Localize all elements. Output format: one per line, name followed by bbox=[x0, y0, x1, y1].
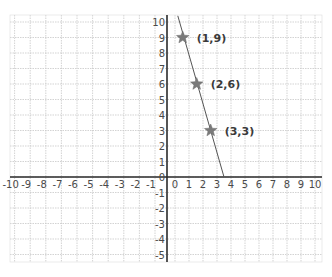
grid bbox=[10, 15, 322, 262]
y-tick-label: 2 bbox=[159, 141, 165, 152]
x-tick-label: 0 bbox=[172, 179, 178, 190]
x-tick-label: -5 bbox=[84, 179, 94, 190]
star-marker-icon bbox=[177, 31, 189, 43]
point-label: (2,6) bbox=[211, 78, 241, 91]
x-tick-label: 10 bbox=[309, 179, 322, 190]
x-tick-label: 7 bbox=[270, 179, 276, 190]
x-tick-label: 4 bbox=[228, 179, 234, 190]
x-tick-label: -6 bbox=[68, 179, 78, 190]
y-tick-label: 4 bbox=[159, 110, 165, 121]
x-tick-label: 3 bbox=[214, 179, 220, 190]
x-tick-label: -8 bbox=[37, 179, 47, 190]
x-tick-label: 9 bbox=[298, 179, 304, 190]
point-label: (1,9) bbox=[197, 32, 227, 45]
star-marker-icon bbox=[205, 124, 217, 136]
star-marker-icon bbox=[191, 78, 203, 90]
x-tick-label: 8 bbox=[284, 179, 290, 190]
x-tick-label: -4 bbox=[99, 179, 109, 190]
x-tick-label: 5 bbox=[242, 179, 248, 190]
x-tick-label: -2 bbox=[130, 179, 140, 190]
y-axis-ticks: -5-4-3-2-1012345678910 bbox=[152, 17, 165, 261]
y-tick-label: 10 bbox=[152, 17, 165, 28]
y-tick-label: -4 bbox=[155, 234, 165, 245]
y-tick-label: -2 bbox=[155, 203, 165, 214]
x-tick-label: -9 bbox=[21, 179, 31, 190]
y-tick-label: 0 bbox=[159, 172, 165, 183]
y-tick-label: 7 bbox=[159, 64, 165, 75]
x-tick-label: -10 bbox=[2, 179, 18, 190]
y-tick-label: 5 bbox=[159, 95, 165, 106]
x-tick-label: -7 bbox=[52, 179, 62, 190]
y-tick-label: 1 bbox=[159, 157, 165, 168]
point-label: (3,3) bbox=[225, 125, 255, 138]
coordinate-plane-chart: -10-9-8-7-6-5-4-3-2-1012345678910 -5-4-3… bbox=[0, 0, 332, 277]
data-series: (1,9)(2,6)(3,3) bbox=[177, 16, 255, 177]
y-tick-label: 6 bbox=[159, 79, 165, 90]
y-tick-label: -5 bbox=[155, 250, 165, 261]
x-tick-label: 1 bbox=[186, 179, 192, 190]
y-tick-label: -1 bbox=[155, 188, 165, 199]
y-tick-label: 8 bbox=[159, 48, 165, 59]
y-tick-label: 9 bbox=[159, 33, 165, 44]
y-tick-label: 3 bbox=[159, 126, 165, 137]
axes bbox=[10, 15, 322, 262]
y-tick-label: -3 bbox=[155, 219, 165, 230]
x-tick-label: 2 bbox=[200, 179, 206, 190]
x-tick-label: -3 bbox=[115, 179, 125, 190]
x-tick-label: 6 bbox=[256, 179, 262, 190]
